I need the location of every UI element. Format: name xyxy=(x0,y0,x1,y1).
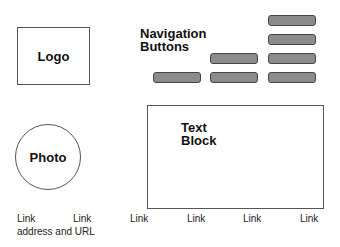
logo-label: Logo xyxy=(38,49,70,64)
nav-button-col3-4[interactable] xyxy=(268,72,316,83)
text-block xyxy=(147,105,324,209)
footer-link-2[interactable]: Link xyxy=(73,213,91,224)
nav-button-col3-2[interactable] xyxy=(268,34,316,45)
footer-link-3[interactable]: Link xyxy=(130,213,148,224)
navigation-title: Navigation Buttons xyxy=(140,27,206,53)
footer-address: address and URL xyxy=(17,226,95,237)
photo-label: Photo xyxy=(30,150,67,165)
nav-button-col2-2[interactable] xyxy=(210,72,258,83)
footer-link-5[interactable]: Link xyxy=(243,213,261,224)
text-block-line2: Block xyxy=(181,134,216,147)
nav-button-col2-1[interactable] xyxy=(210,53,258,64)
logo-placeholder[interactable]: Logo xyxy=(17,27,90,85)
nav-button-col3-3[interactable] xyxy=(268,53,316,64)
nav-button-col3-1[interactable] xyxy=(268,15,316,26)
navigation-title-line2: Buttons xyxy=(140,40,206,53)
text-block-label: Text Block xyxy=(181,121,216,147)
footer-link-4[interactable]: Link xyxy=(187,213,205,224)
footer-link-6[interactable]: Link xyxy=(300,213,318,224)
footer-link-1[interactable]: Link xyxy=(17,213,35,224)
nav-button-col1-1[interactable] xyxy=(153,72,201,83)
photo-placeholder: Photo xyxy=(15,124,81,190)
